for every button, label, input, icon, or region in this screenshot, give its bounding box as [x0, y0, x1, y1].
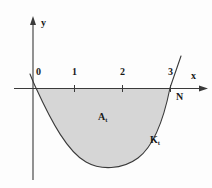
y-axis-arrowhead: [30, 16, 36, 25]
curve-label-subscript: t: [158, 139, 160, 146]
y-axis-label: y: [41, 18, 46, 28]
x-axis-arrowhead: [199, 86, 208, 92]
math-figure-parabola: 0 1 2 3 x y At Kt N: [0, 0, 212, 188]
area-label-subscript: t: [105, 116, 107, 123]
curve-label-base: K: [150, 134, 158, 145]
x-tick-label-0: 0: [36, 67, 41, 77]
curve-label-Kt: Kt: [150, 135, 160, 145]
x-tick-label-1: 1: [72, 67, 77, 77]
x-axis-label: x: [191, 71, 196, 81]
area-label-At: At: [98, 112, 107, 122]
x-tick-label-3: 3: [168, 67, 173, 77]
point-label-N: N: [176, 92, 183, 102]
x-tick-label-2: 2: [120, 67, 125, 77]
